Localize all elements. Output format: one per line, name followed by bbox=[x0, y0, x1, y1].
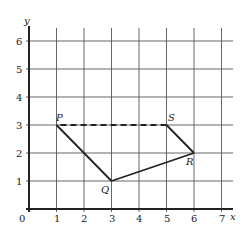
x-tick-5: 5 bbox=[164, 213, 170, 224]
point-label-q: Q bbox=[101, 184, 109, 195]
coordinate-grid: y x 0 1 2 3 4 5 6 7 1 2 3 4 5 6 P Q R S bbox=[0, 0, 249, 240]
point-label-p: P bbox=[55, 112, 63, 123]
y-axis-label: y bbox=[23, 15, 30, 26]
y-tick-4: 4 bbox=[16, 92, 22, 103]
point-label-s: S bbox=[168, 112, 175, 123]
y-tick-6: 6 bbox=[16, 36, 22, 47]
x-tick-4: 4 bbox=[136, 213, 142, 224]
x-tick-2: 2 bbox=[81, 213, 87, 224]
segment-rs bbox=[167, 125, 195, 153]
x-tick-7: 7 bbox=[219, 213, 225, 224]
x-axis-label: x bbox=[230, 211, 236, 222]
origin-label: 0 bbox=[19, 213, 25, 224]
x-tick-1: 1 bbox=[54, 213, 60, 224]
segment-qr bbox=[112, 153, 195, 181]
x-tick-3: 3 bbox=[109, 213, 115, 224]
y-tick-5: 5 bbox=[16, 64, 22, 75]
y-tick-2: 2 bbox=[16, 148, 22, 159]
y-tick-1: 1 bbox=[16, 176, 22, 187]
point-label-r: R bbox=[185, 156, 194, 167]
x-tick-6: 6 bbox=[191, 213, 197, 224]
y-tick-3: 3 bbox=[16, 120, 22, 131]
